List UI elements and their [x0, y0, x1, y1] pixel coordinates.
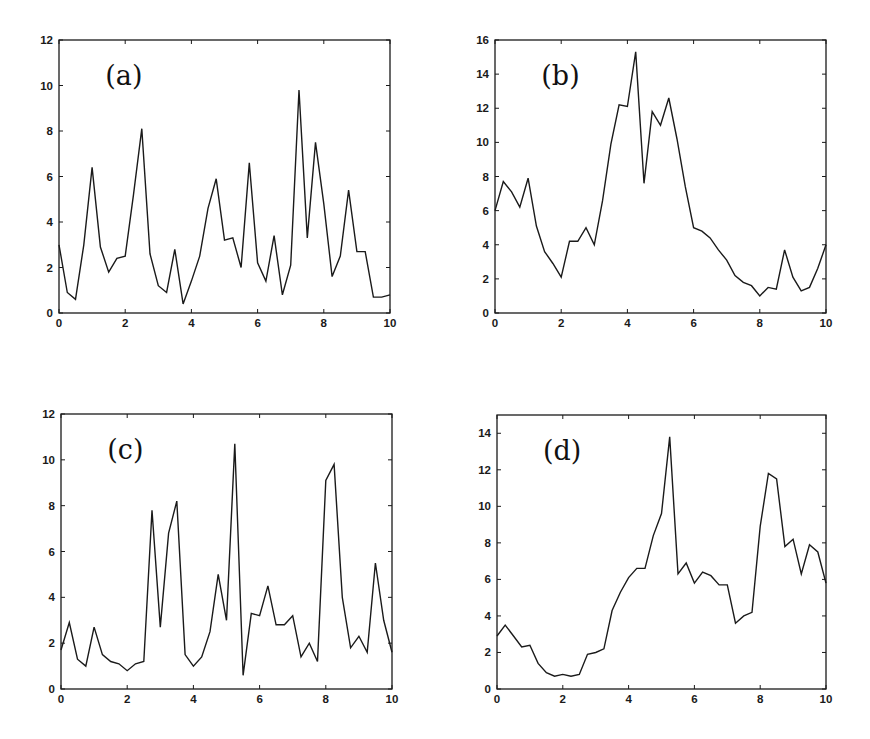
y-tick-label: 2 [49, 637, 55, 649]
x-tick-label: 8 [757, 317, 764, 329]
y-tick-label: 10 [476, 136, 489, 148]
y-tick-label: 0 [483, 307, 489, 319]
y-tick-label: 2 [483, 273, 489, 285]
x-tick-label: 10 [820, 693, 833, 705]
x-tick-label: 2 [124, 693, 130, 705]
y-tick-label: 0 [49, 683, 55, 695]
y-tick-label: 0 [47, 307, 53, 319]
figure-canvas: 0246810024681012(a) 02468100246810121416… [0, 0, 870, 739]
data-series-line [61, 444, 392, 676]
x-tick-label: 6 [691, 693, 697, 705]
y-tick-label: 12 [42, 408, 55, 420]
y-tick-label: 6 [483, 205, 489, 217]
x-tick-label: 0 [56, 317, 62, 329]
x-tick-label: 4 [625, 693, 632, 705]
y-tick-label: 0 [485, 683, 491, 695]
x-tick-label: 0 [494, 693, 500, 705]
panel-d: 024681002468101214(d) [478, 415, 832, 705]
y-tick-label: 8 [483, 171, 490, 183]
y-tick-label: 12 [476, 102, 489, 114]
panel-label: (d) [543, 435, 581, 466]
x-tick-label: 0 [58, 693, 64, 705]
x-tick-label: 6 [256, 693, 262, 705]
panel-c: 0246810024681012(c) [42, 408, 398, 705]
x-tick-label: 4 [188, 317, 195, 329]
y-tick-label: 10 [42, 454, 55, 466]
y-tick-label: 16 [476, 34, 489, 46]
x-tick-label: 0 [492, 317, 498, 329]
y-tick-label: 4 [483, 239, 490, 251]
y-tick-label: 10 [40, 80, 53, 92]
y-tick-label: 14 [478, 427, 491, 439]
y-tick-label: 10 [478, 500, 491, 512]
panel-label: (b) [541, 60, 579, 91]
x-tick-label: 10 [384, 317, 397, 329]
x-tick-label: 2 [122, 317, 128, 329]
panel-a: 0246810024681012(a) [40, 34, 396, 329]
panel-label: (a) [105, 60, 142, 91]
y-tick-label: 8 [485, 537, 492, 549]
y-tick-label: 6 [47, 171, 53, 183]
y-tick-label: 6 [49, 546, 55, 558]
x-tick-label: 8 [321, 317, 328, 329]
y-tick-label: 6 [485, 573, 491, 585]
x-tick-label: 6 [690, 317, 696, 329]
y-tick-label: 8 [49, 500, 56, 512]
data-series-line [59, 90, 390, 304]
x-tick-label: 10 [386, 693, 399, 705]
y-tick-label: 12 [478, 464, 491, 476]
x-tick-label: 6 [254, 317, 260, 329]
y-tick-label: 4 [47, 216, 54, 228]
y-tick-label: 12 [40, 34, 53, 46]
data-series-line [497, 437, 826, 676]
y-tick-label: 2 [47, 262, 53, 274]
x-tick-label: 10 [820, 317, 833, 329]
x-tick-label: 4 [624, 317, 631, 329]
y-tick-label: 8 [47, 125, 54, 137]
y-tick-label: 4 [49, 591, 56, 603]
y-tick-label: 14 [476, 68, 489, 80]
x-tick-label: 8 [757, 693, 764, 705]
x-tick-label: 2 [558, 317, 564, 329]
x-tick-label: 2 [560, 693, 566, 705]
panel-label: (c) [107, 434, 143, 465]
y-tick-label: 2 [485, 646, 491, 658]
panel-b: 02468100246810121416(b) [476, 34, 832, 329]
x-tick-label: 8 [323, 693, 330, 705]
x-tick-label: 4 [190, 693, 197, 705]
y-tick-label: 4 [485, 610, 492, 622]
